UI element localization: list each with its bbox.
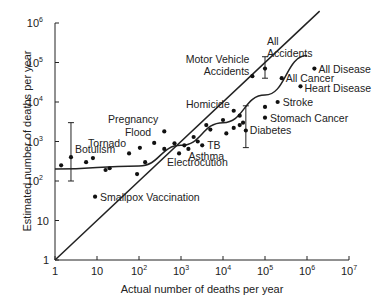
data-point [192, 135, 196, 139]
point-label: Motor Vehicle [186, 53, 250, 65]
point-label: Accidents [204, 65, 250, 77]
data-point [162, 147, 166, 151]
data-point [208, 128, 212, 132]
data-point [177, 151, 181, 155]
data-point [135, 172, 139, 176]
data-point [103, 168, 107, 172]
data-point [204, 123, 208, 127]
data-point [84, 160, 88, 164]
data-point [162, 129, 166, 133]
data-point [59, 163, 63, 167]
x-axis-title: Actual number of deaths per year [121, 283, 284, 295]
point-label: Stomach Cancer [270, 112, 349, 124]
data-point [241, 121, 245, 125]
data-point [108, 166, 112, 170]
data-point [152, 141, 156, 145]
data-point [224, 131, 228, 135]
point-label: Pregnancy [108, 113, 159, 125]
x-tick-label: 104 [215, 264, 231, 277]
point-label: Diabetes [250, 124, 291, 136]
y-axis-title: Estimated number of deaths per year [21, 50, 33, 231]
y-tick-label: 1 [43, 254, 49, 266]
data-point [276, 100, 280, 104]
risk-perception-chart: 110102103104105106107110102103104105106 … [0, 0, 385, 308]
data-point [232, 126, 236, 130]
data-point [238, 114, 242, 118]
y-tick-label: 10 [37, 215, 49, 227]
data-point [172, 141, 176, 145]
data-point [127, 151, 131, 155]
point-label: TB [207, 139, 220, 151]
data-point [232, 109, 236, 113]
data-point [91, 156, 95, 160]
point-label: Stroke [283, 96, 314, 108]
point-label: Accidents [267, 47, 313, 59]
data-point [69, 155, 73, 159]
data-point [263, 67, 267, 71]
x-tick-label: 107 [341, 264, 357, 277]
data-point [221, 118, 225, 122]
data-point [138, 146, 142, 150]
data-point [280, 76, 284, 80]
point-label: Heart Disease [304, 82, 371, 94]
data-point [93, 195, 97, 199]
point-label: Asthma [188, 150, 224, 162]
data-point [182, 143, 186, 147]
point-label: Smallpox Vaccination [100, 191, 200, 203]
data-point [298, 84, 302, 88]
point-label: Homicide [186, 98, 230, 110]
x-tick-label: 10 [91, 265, 103, 277]
data-point [200, 143, 204, 147]
data-point [196, 139, 200, 143]
y-tick-label: 106 [27, 16, 43, 29]
point-label: Tornado [88, 137, 126, 149]
x-tick-label: 103 [173, 264, 189, 277]
data-point [244, 128, 248, 132]
point-label: Flood [125, 126, 151, 138]
point-label: All [267, 35, 279, 47]
data-point [312, 67, 316, 71]
data-point [238, 123, 242, 127]
data-point [263, 105, 267, 109]
data-point [143, 160, 147, 164]
data-point [263, 116, 267, 120]
x-tick-label: 106 [299, 264, 315, 277]
data-point [250, 74, 254, 78]
x-tick-label: 1 [52, 265, 58, 277]
point-label: All Disease [318, 63, 371, 75]
x-tick-label: 105 [257, 264, 273, 277]
x-tick-label: 102 [131, 264, 147, 277]
